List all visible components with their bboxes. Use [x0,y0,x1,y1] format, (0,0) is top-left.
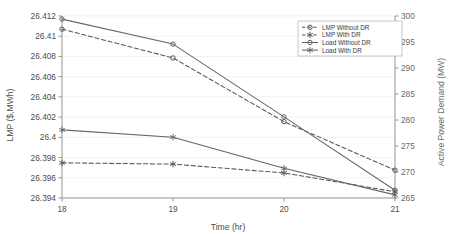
series-2 [59,160,397,195]
y-tick-label: 26.408 [31,51,57,61]
x-tick-label: 19 [168,204,178,214]
x-tick-label: 20 [279,204,289,214]
y-tick-label: 26.396 [31,173,57,183]
x-axis-tick-labels: 18192021 [57,204,400,214]
y2-tick-label: 300 [401,11,415,21]
y-tick-label: 26.4 [40,132,57,142]
series-line [62,163,395,192]
y-tick-label: 26.398 [31,153,57,163]
x-tick-label: 18 [57,204,67,214]
y2-tick-label: 290 [401,63,415,73]
y-tick-label: 26.402 [31,112,57,122]
y2-tick-label: 295 [401,37,415,47]
y-tick-label: 26.394 [31,193,57,203]
y2-tick-label: 285 [401,89,415,99]
legend-label: Load With DR [322,47,362,54]
y-tick-label: 26.404 [31,92,57,102]
y2-tick-label: 265 [401,193,415,203]
legend-label: LMP With DR [322,31,361,38]
series-line [62,130,395,195]
y2-axis-tick-labels: 265270275280285290295300 [401,11,415,203]
y-tick-label: 26.412 [31,11,57,21]
y-axis-tick-labels: 26.39426.39626.39826.426.40226.40426.406… [31,11,57,203]
y2-tick-label: 270 [401,167,415,177]
legend-label: Load Without DR [322,39,371,46]
dual-axis-line-chart: 26.39426.39626.39826.426.40226.40426.406… [0,0,453,234]
y-axis-title: LMP ($,MWh) [5,88,15,141]
chart-legend: LMP Without DRLMP With DRLoad Without DR… [298,21,402,56]
y2-axis-title: Active Power Demand (MW) [436,58,446,167]
y2-tick-label: 280 [401,115,415,125]
x-axis-title: Time (hr) [211,222,246,232]
y-tick-label: 26.41 [35,31,56,41]
y-tick-label: 26.406 [31,72,57,82]
y2-tick-label: 275 [401,141,415,151]
chart-container: 26.39426.39626.39826.426.40226.40426.406… [0,0,453,234]
x-tick-label: 21 [390,204,400,214]
legend-label: LMP Without DR [322,24,370,31]
